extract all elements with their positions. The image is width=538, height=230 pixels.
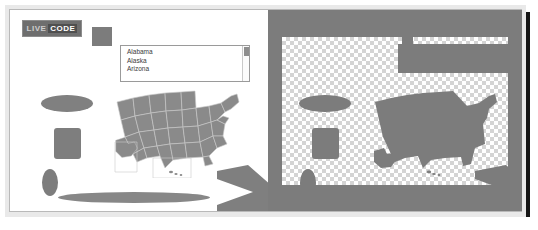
scrollbar-vertical[interactable] (242, 46, 249, 81)
live-code-logo: LIVE CODE (22, 20, 82, 37)
shape-small-ellipse[interactable] (42, 169, 58, 196)
composition-canvas[interactable]: LIVE CODE Alabama Alaska Arizona (10, 10, 268, 211)
color-swatch[interactable] (92, 27, 112, 46)
shape-rounded-rectangle[interactable] (54, 128, 81, 159)
mask-chevron-arrow (473, 165, 508, 185)
list-item[interactable]: Alabama (127, 48, 249, 57)
mask-wide-ellipse (299, 95, 351, 112)
transparency-checkerboard (282, 37, 508, 185)
logo-code-text: CODE (48, 24, 77, 33)
shape-wide-ellipse[interactable] (41, 95, 93, 112)
mask-small-ellipse (300, 169, 316, 185)
logo-live-text: LIVE (27, 24, 47, 33)
screenshot-stage: LIVE CODE Alabama Alaska Arizona (0, 0, 538, 230)
us-map-shape[interactable] (113, 82, 245, 178)
shape-lens-sliver[interactable] (58, 192, 210, 203)
state-list[interactable]: Alabama Alaska Arizona (120, 45, 250, 82)
alpha-mask-preview[interactable] (268, 10, 522, 211)
scrollbar-thumb[interactable] (244, 47, 249, 56)
mask-state-list (398, 44, 508, 73)
list-item[interactable]: Arizona (127, 65, 249, 74)
mask-rounded-rectangle (312, 128, 339, 159)
list-item[interactable]: Alaska (127, 57, 249, 66)
mask-us-map (371, 82, 503, 178)
